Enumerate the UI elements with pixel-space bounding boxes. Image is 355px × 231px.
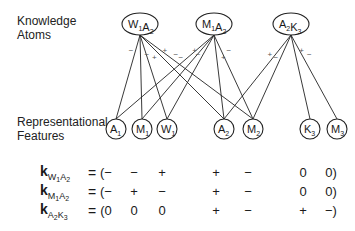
feature-node-A2: A2 xyxy=(214,119,234,139)
edge-sign-A2K3-K3: + xyxy=(299,46,304,55)
edge-A2K3-A2 xyxy=(224,35,291,119)
edge-sign-A2K3-M3: − xyxy=(307,50,312,59)
vector-cell: + xyxy=(208,184,224,199)
atom-node-M1A2: M1A2 xyxy=(196,13,232,35)
edge-sign-M1A2-A1: − xyxy=(179,53,184,62)
edge-W1A2-M1 xyxy=(140,35,142,119)
vector-name: kW1A2 xyxy=(40,163,70,179)
feature-node-M3: M3 xyxy=(327,119,347,139)
feature-node-K3: K3 xyxy=(300,119,320,139)
edge-sign-W1A2-M1: − xyxy=(145,50,150,59)
vector-cell: − xyxy=(240,184,256,199)
vector-cell: 0 xyxy=(126,203,142,218)
vector-name: kA2K3 xyxy=(40,201,68,217)
edge-M1A2-W1 xyxy=(167,35,214,119)
edge-sign-M1A2-M2: − xyxy=(227,46,232,55)
edge-sign-W1A2-A1: − xyxy=(129,46,134,55)
vector-cell: −) xyxy=(323,203,339,218)
vector-cell: + xyxy=(208,165,224,180)
vector-cell: (− xyxy=(98,165,114,180)
vector-cell: + xyxy=(208,203,224,218)
equals-sign: = xyxy=(88,165,96,181)
vector-cell: − xyxy=(154,184,170,199)
vector-cell: 0) xyxy=(323,184,339,199)
vector-cell: + xyxy=(154,165,170,180)
vector-cell: (− xyxy=(98,184,114,199)
equals-sign: = xyxy=(88,203,96,219)
network-diagram: −−++−−+−+−+−+− W1A2M1A2A2K3 A1M1W1A2M2K3… xyxy=(0,0,355,150)
feature-node-M2: M2 xyxy=(243,119,263,139)
edge-sign-M1A2-W1: − xyxy=(196,50,201,59)
vector-cell: − xyxy=(240,165,256,180)
atoms-group: W1A2M1A2A2K3 xyxy=(122,13,309,35)
vector-cell: 0 xyxy=(295,184,311,199)
edge-A2K3-M3 xyxy=(291,35,337,119)
vector-cell: 0 xyxy=(295,165,311,180)
vector-name: kM1A2 xyxy=(40,182,69,198)
vector-row: kA2K3=(000+−+−) xyxy=(0,203,355,223)
edge-sign-W1A2-A2: + xyxy=(162,46,167,55)
feature-node-A1: A1 xyxy=(106,119,126,139)
edge-sign-W1A2-W1: + xyxy=(152,53,157,62)
atom-node-W1A2: W1A2 xyxy=(122,13,158,35)
vector-cell: 0 xyxy=(154,203,170,218)
edge-A2K3-M2 xyxy=(253,35,291,119)
vector-cell: − xyxy=(240,203,256,218)
edge-sign-A2K3-A2: + xyxy=(268,50,273,59)
feature-node-W1: W1 xyxy=(157,119,177,139)
vector-cell: − xyxy=(126,165,142,180)
edge-sign-A2K3-M2: − xyxy=(274,53,279,62)
vector-cell: + xyxy=(295,203,311,218)
vector-cell: 0) xyxy=(323,165,339,180)
edge-sign-M1A2-A2: + xyxy=(221,53,226,62)
features-group: A1M1W1A2M2K3M3 xyxy=(106,119,347,139)
vector-cell: (0 xyxy=(98,203,114,218)
atom-node-A2K3: A2K3 xyxy=(273,13,309,35)
edge-M1A2-A2 xyxy=(214,35,224,119)
feature-node-M1: M1 xyxy=(132,119,152,139)
equals-sign: = xyxy=(88,184,96,200)
vector-cell: + xyxy=(126,184,142,199)
